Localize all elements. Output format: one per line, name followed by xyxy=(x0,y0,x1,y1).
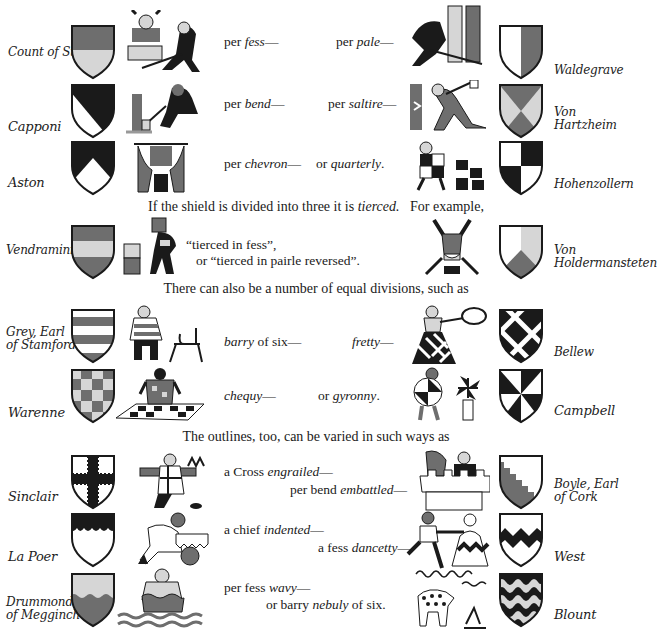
shield-cross-engrailed xyxy=(70,454,116,510)
shield-name-sinclair: Sinclair xyxy=(8,490,57,503)
caption-barry-of-six: barry of six— xyxy=(224,334,301,350)
figure-wading-man-illustration xyxy=(116,568,206,630)
figure-executioner-illustration xyxy=(122,10,204,76)
shield-barry-nebuly xyxy=(498,572,544,628)
shield-tierced-in-fess xyxy=(70,224,116,280)
caption-fretty: fretty— xyxy=(352,334,394,350)
caption-per-bend: per bend— xyxy=(224,96,284,112)
caption-tierced-in-fess: “tierced in fess”, xyxy=(186,237,276,253)
shield-name-waldegrave: Waldegrave xyxy=(554,64,624,77)
shield-per-chevron xyxy=(70,140,116,196)
figure-block-carrier-illustration xyxy=(122,216,192,278)
outlines-intro-text: The outlines, too, can be varied in such… xyxy=(0,429,632,445)
shield-name-warenne: Warenne xyxy=(8,406,65,419)
caption-per-fess-wavy: per fess wavy— xyxy=(224,580,310,596)
caption-per-bend-embattled: per bend embattled— xyxy=(290,482,407,498)
figure-curtain-illustration xyxy=(132,140,190,194)
shield-name-capponi: Capponi xyxy=(8,120,61,133)
shield-fretty xyxy=(498,308,544,364)
shield-name-vendramini: Vendramini xyxy=(6,244,74,257)
shield-quarterly xyxy=(498,140,544,196)
shield-per-bend xyxy=(70,83,116,139)
caption-quarterly: or quarterly. xyxy=(316,156,384,172)
shield-name-von-hartzheim: Von Hartzheim xyxy=(554,106,632,132)
shield-tierced-in-pairle-reversed xyxy=(498,224,544,280)
figure-seated-man-illustration xyxy=(120,304,204,364)
figure-sawing-men-illustration xyxy=(408,0,496,74)
shield-per-pale xyxy=(498,24,544,80)
shield-gyronny xyxy=(498,368,544,424)
shield-per-fess xyxy=(70,24,116,80)
caption-chequy: chequy— xyxy=(224,388,276,404)
shield-fess-dancetty xyxy=(498,512,544,568)
shield-name-grey-earl-of-stamford: Grey, Earlof Stamford xyxy=(6,326,76,352)
caption-per-pale: per pale— xyxy=(336,34,393,50)
caption-gyronny: or gyronny. xyxy=(318,388,380,404)
caption-per-saltire: per saltire— xyxy=(328,96,396,112)
divisions-intro-text: There can also be a number of equal divi… xyxy=(0,281,632,297)
shield-per-bend-embattled xyxy=(498,454,544,510)
figure-battlement-illustration xyxy=(418,448,490,512)
shield-name-boyle-earl-of-cork: Boyle, Earlof Cork xyxy=(554,478,619,504)
shield-name-hohenzollern: Hohenzollern xyxy=(554,178,634,191)
caption-cross-engrailed: a Cross engrailed— xyxy=(224,464,333,480)
shield-name-drummond-of-megginch: Drummondof Megginch xyxy=(6,596,80,622)
shield-name-aston: Aston xyxy=(8,176,44,189)
figure-fire-and-bear-illustration xyxy=(412,568,496,632)
caption-barry-nebuly: or barry nebuly of six. xyxy=(266,597,386,613)
figure-mason-illustration xyxy=(410,140,490,192)
figure-woodcutter-illustration xyxy=(122,80,206,136)
figure-chessboard-man-illustration xyxy=(114,366,206,422)
figure-axeman-illustration xyxy=(408,80,494,134)
figure-cutting-man-illustration xyxy=(130,510,212,568)
shield-chief-indented xyxy=(70,512,116,568)
figure-windmill-blower-illustration xyxy=(408,366,492,424)
shield-name-west: West xyxy=(554,550,585,563)
shield-name-von-holdermansteten: VonHoldermansteten xyxy=(554,244,657,270)
caption-chief-indented: a chief indented— xyxy=(224,522,324,538)
figure-basket-woman-illustration xyxy=(410,302,494,366)
figure-dancers-illustration xyxy=(406,510,494,572)
tierced-intro-text: If the shield is divided into three it i… xyxy=(0,199,632,215)
shield-per-saltire xyxy=(498,83,544,139)
shield-name-la-poer: La Poer xyxy=(8,550,57,563)
caption-per-fess: per fess— xyxy=(224,34,278,50)
caption-fess-dancetty: a fess dancetty— xyxy=(318,540,411,556)
shield-per-fess-wavy xyxy=(70,572,116,628)
shield-name-campbell: Campbell xyxy=(554,404,615,417)
figure-handstand-illustration xyxy=(420,216,484,278)
caption-per-chevron: per chevron— xyxy=(224,156,301,172)
caption-tierced-in-pairle-reversed: or “tierced in pairle reversed”. xyxy=(196,253,360,269)
shield-name-blount: Blount xyxy=(554,608,596,621)
shield-name-bellew: Bellew xyxy=(554,346,594,359)
shield-barry-of-six xyxy=(70,308,116,364)
figure-kneeling-knight-illustration xyxy=(136,452,210,512)
shield-chequy xyxy=(70,368,116,424)
